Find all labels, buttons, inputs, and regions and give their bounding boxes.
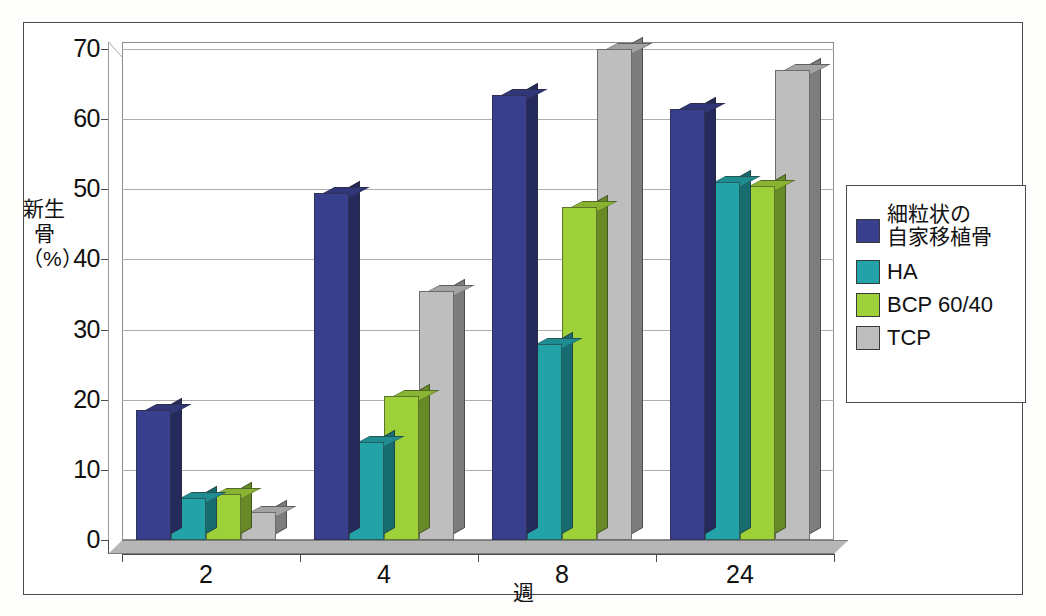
plot-side-wall [108, 42, 122, 540]
legend-item-label: HA [887, 260, 918, 283]
x-axis-title: 週 [0, 576, 1046, 606]
y-axis-label-0: 0 [87, 527, 100, 552]
plot-floor-surface [108, 540, 848, 554]
legend-label-line-1: 細粒状の [887, 202, 992, 226]
bar-front-face [670, 109, 705, 540]
y-axis-tick-labels: 010203040506070 [44, 0, 100, 616]
y-axis-label-30: 30 [73, 317, 100, 342]
bar-side-face [171, 398, 182, 534]
bar-front-face [492, 95, 527, 540]
y-axis-label-10: 10 [73, 457, 100, 482]
bar-side-face [597, 194, 608, 534]
chart-figure: 新生 骨 （%） 010203040506070 24824 週 細粒状の自家移… [0, 0, 1046, 616]
gridline-60 [122, 119, 834, 120]
legend-item-細粒状の自家移植骨[interactable]: 細粒状の自家移植骨 [856, 195, 1019, 249]
legend-item-label: BCP 60/40 [887, 293, 993, 316]
legend-label-line-2: 自家移植骨 [887, 225, 992, 249]
y-axis-label-70: 70 [73, 36, 100, 61]
legend: 細粒状の自家移植骨HABCP 60/40TCP [846, 185, 1026, 403]
legend-swatch-icon [856, 219, 880, 243]
legend-item-TCP[interactable]: TCP [856, 326, 1019, 350]
y-axis-label-50: 50 [73, 176, 100, 201]
bar-side-face [775, 173, 786, 534]
legend-swatch-icon [856, 326, 880, 350]
legend-item-HA[interactable]: HA [856, 260, 1019, 284]
bar-side-face [349, 180, 360, 534]
y-axis-label-20: 20 [73, 387, 100, 412]
legend-item-label: TCP [887, 326, 931, 349]
bar-side-face [527, 82, 538, 534]
bar-side-face [419, 384, 430, 534]
bar-side-face [705, 96, 716, 534]
bar-4-細粒状の自家移植骨 [314, 193, 349, 540]
legend-swatch-icon [856, 293, 880, 317]
bar-side-face [810, 58, 821, 534]
bar-front-face [314, 193, 349, 540]
bar-front-face [136, 410, 171, 540]
legend-item-BCP 60/40[interactable]: BCP 60/40 [856, 293, 1019, 317]
legend-item-label: 細粒状の自家移植骨 [887, 202, 992, 249]
bar-side-face [740, 170, 751, 534]
gridline-70 [122, 49, 834, 50]
x-axis-tick-0 [122, 554, 123, 562]
bar-8-細粒状の自家移植骨 [492, 95, 527, 540]
bar-side-face [454, 279, 465, 534]
bar-2-細粒状の自家移植骨 [136, 410, 171, 540]
legend-entries: 細粒状の自家移植骨HABCP 60/40TCP [856, 195, 1019, 396]
x-axis-tick-3 [656, 554, 657, 562]
x-axis-tick-2 [478, 554, 479, 562]
bar-24-細粒状の自家移植骨 [670, 109, 705, 540]
legend-swatch-icon [856, 260, 880, 284]
y-axis-label-40: 40 [73, 246, 100, 271]
plot-floor [108, 540, 834, 554]
y-axis-label-60: 60 [73, 106, 100, 131]
plot-area [122, 42, 834, 540]
x-axis-tick-1 [300, 554, 301, 562]
x-axis-tick-4 [834, 554, 835, 562]
bar-side-face [632, 37, 643, 534]
bar-side-face [562, 331, 573, 534]
